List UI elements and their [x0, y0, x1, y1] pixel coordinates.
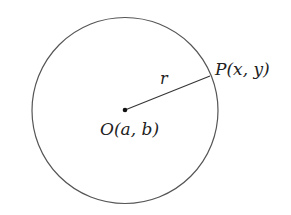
- point-label: P(x, y): [214, 59, 270, 79]
- center-label: O(a, b): [100, 119, 159, 139]
- radius-label: r: [160, 69, 169, 88]
- circle-diagram: r P(x, y) O(a, b): [0, 0, 291, 215]
- center-point: [123, 108, 128, 113]
